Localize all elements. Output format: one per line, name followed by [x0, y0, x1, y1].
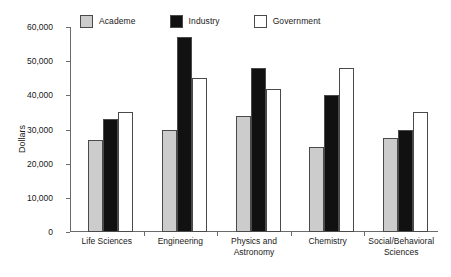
y-axis-tick — [66, 27, 70, 28]
y-axis-tick-label: 50,000 — [27, 56, 53, 66]
y-axis-tick-label: 40,000 — [27, 90, 53, 100]
x-axis-category-label: Social/Behavioral Sciences — [364, 236, 438, 257]
legend-label: Academe — [99, 16, 136, 26]
y-axis-tick — [66, 130, 70, 131]
legend-label: Industry — [189, 16, 220, 26]
legend-entry-industry[interactable]: Industry — [170, 15, 220, 28]
y-axis-tick — [66, 164, 70, 165]
bar-academe[interactable] — [162, 130, 177, 233]
bar-government[interactable] — [118, 112, 133, 232]
legend-entry-academe[interactable]: Academe — [80, 15, 136, 28]
bar-group — [162, 27, 207, 232]
bar-chart: AcademeIndustryGovernment Dollars 010,00… — [0, 0, 451, 277]
y-axis-title: Dollars — [17, 124, 27, 152]
legend-entry-government[interactable]: Government — [254, 15, 321, 28]
plot-area: 010,00020,00030,00040,00050,00060,000 — [70, 27, 438, 232]
bar-academe[interactable] — [309, 147, 324, 232]
x-axis-category-label: Engineering — [144, 236, 218, 247]
y-axis-tick — [66, 95, 70, 96]
y-axis-tick-label: 30,000 — [27, 125, 53, 135]
legend-swatch-icon — [80, 15, 93, 28]
bar-group — [236, 27, 281, 232]
bar-academe[interactable] — [236, 116, 251, 232]
bar-government[interactable] — [192, 78, 207, 232]
y-axis-tick — [66, 198, 70, 199]
bar-industry[interactable] — [324, 95, 339, 232]
bar-government[interactable] — [339, 68, 354, 232]
bar-group — [88, 27, 133, 232]
y-axis-tick-label: 60,000 — [27, 22, 53, 32]
bar-government[interactable] — [413, 112, 428, 232]
y-axis-tick-label: 0 — [48, 227, 53, 237]
y-axis-tick — [66, 232, 70, 233]
bar-industry[interactable] — [398, 130, 413, 233]
legend-swatch-icon — [254, 15, 267, 28]
y-axis-line — [70, 27, 71, 232]
legend-swatch-icon — [170, 15, 183, 28]
bar-industry[interactable] — [177, 37, 192, 232]
y-axis-tick-label: 20,000 — [27, 159, 53, 169]
y-axis-tick — [66, 61, 70, 62]
x-axis-category-label: Life Sciences — [70, 236, 144, 247]
x-axis-category-label: Chemistry — [291, 236, 365, 247]
x-axis-category-label: Physics and Astronomy — [217, 236, 291, 257]
bar-academe[interactable] — [88, 140, 103, 232]
bar-group — [383, 27, 428, 232]
bar-industry[interactable] — [103, 119, 118, 232]
bar-industry[interactable] — [251, 68, 266, 232]
bar-group — [309, 27, 354, 232]
y-axis-tick-label: 10,000 — [27, 193, 53, 203]
bar-academe[interactable] — [383, 138, 398, 232]
legend-label: Government — [273, 16, 321, 26]
bar-government[interactable] — [266, 89, 281, 233]
